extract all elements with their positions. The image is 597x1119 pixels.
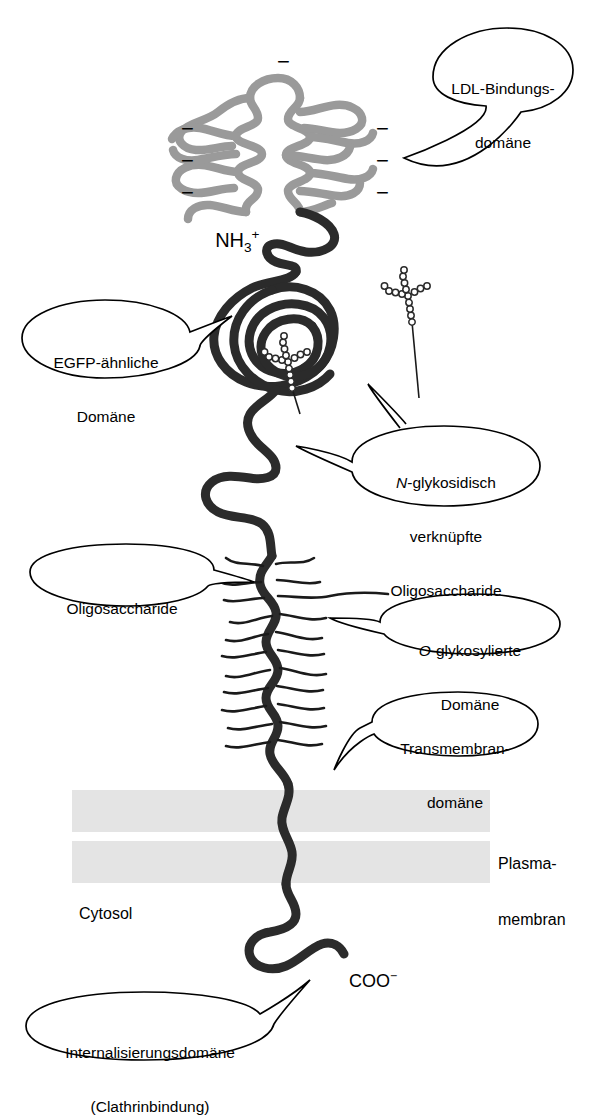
plasma-membrane-line1: Plasma- — [498, 855, 566, 874]
callout-n-glyco-line2: verknüpfte — [356, 528, 536, 546]
plasma-membrane-label: Plasma- membran — [498, 817, 566, 949]
callout-o-glyco-line1: O-glykosylierte — [382, 642, 558, 660]
callout-oligosaccharide-line1: Oligosaccharide — [32, 600, 212, 618]
callout-egfp-label: EGFP-ähnliche Domäne — [22, 318, 190, 444]
callout-ldl-binding-line1: LDL-Bindungs- — [433, 80, 573, 98]
callout-internalization-label: Internalisierungsdomäne (Clathrinbindung… — [26, 1008, 274, 1119]
callout-internalization-line2: (Clathrinbindung) — [26, 1098, 274, 1116]
callout-o-glyco-italic: O — [419, 642, 431, 659]
plasma-membrane-line2: membran — [498, 911, 566, 930]
n-terminus-subscript: 3 — [244, 239, 252, 254]
n-linked-oligosaccharide-right — [381, 267, 430, 398]
callout-transmembrane-line2: domäne — [372, 794, 538, 812]
callout-n-glyco-label: N-glykosidisch verknüpfte Oligosaccharid… — [356, 438, 536, 618]
n-terminus-base: NH — [215, 228, 244, 250]
charge-minus-right-lower: − — [376, 180, 389, 206]
callout-n-glyco-italic: N — [396, 474, 407, 491]
charge-minus-right-upper: − — [376, 116, 389, 142]
ldl-binding-domain-graphic — [172, 78, 373, 219]
c-terminus-base: COO — [349, 971, 390, 991]
n-terminus-superscript: + — [252, 227, 260, 242]
callout-transmembrane-label: Transmembran- domäne — [372, 704, 538, 830]
callout-egfp-line1: EGFP-ähnliche — [22, 354, 190, 372]
c-terminus-superscript: − — [390, 969, 397, 983]
callout-egfp-line2: Domäne — [22, 408, 190, 426]
charge-minus-right-middle: − — [376, 148, 389, 174]
cytosol-label: Cytosol — [79, 905, 132, 924]
callout-ldl-binding-label: LDL-Bindungs- domäne — [433, 44, 573, 170]
c-terminus-label: COO− — [339, 948, 397, 992]
charge-minus-left-middle: − — [181, 148, 194, 174]
callout-n-glyco-line1: N-glykosidisch — [356, 474, 536, 492]
charge-minus-left-lower: − — [181, 180, 194, 206]
callout-n-glyco-line3: Oligosaccharide — [356, 582, 536, 600]
callout-n-glyco-rest: -glykosidisch — [407, 474, 496, 491]
callout-internalization-line1: Internalisierungsdomäne — [26, 1044, 274, 1062]
callout-oligosaccharide-label: Oligosaccharide — [32, 564, 212, 636]
charge-minus-top: − — [277, 49, 290, 75]
n-terminus-label: NH3+ — [204, 203, 260, 255]
callout-ldl-binding-line2: domäne — [433, 134, 573, 152]
callout-o-glyco-rest: -glykosylierte — [431, 642, 521, 659]
callout-transmembrane-line1: Transmembran- — [372, 740, 538, 758]
charge-minus-left-upper: − — [181, 116, 194, 142]
